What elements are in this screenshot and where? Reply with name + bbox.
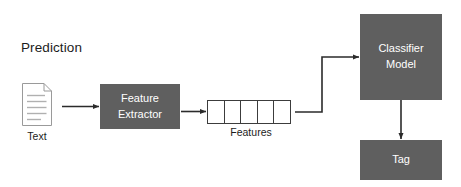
document-icon <box>22 83 52 126</box>
feature-cell[interactable] <box>207 100 225 124</box>
features-vector <box>207 100 290 124</box>
features-label: Features <box>207 126 295 138</box>
feature-cell[interactable] <box>224 100 242 124</box>
diagram-title: Prediction <box>21 40 82 55</box>
feature-extractor-label-line1: Feature <box>121 91 159 107</box>
classifier-label-line1: Classifier <box>378 41 423 57</box>
classifier-model-box[interactable]: Classifier Model <box>360 14 442 100</box>
prediction-pipeline-diagram: Prediction Text Feature Extractor Featur… <box>0 0 461 187</box>
feature-cell[interactable] <box>240 100 258 124</box>
feature-extractor-box[interactable]: Feature Extractor <box>100 84 180 129</box>
text-input-label: Text <box>22 130 52 142</box>
feature-cell[interactable] <box>257 100 275 124</box>
classifier-label-line2: Model <box>386 57 416 73</box>
feature-cell[interactable] <box>273 100 291 124</box>
arrow-features-to-classifier <box>295 57 359 112</box>
feature-extractor-label-line2: Extractor <box>118 107 162 123</box>
tag-output-box[interactable]: Tag <box>360 140 442 180</box>
tag-output-label: Tag <box>392 152 410 168</box>
